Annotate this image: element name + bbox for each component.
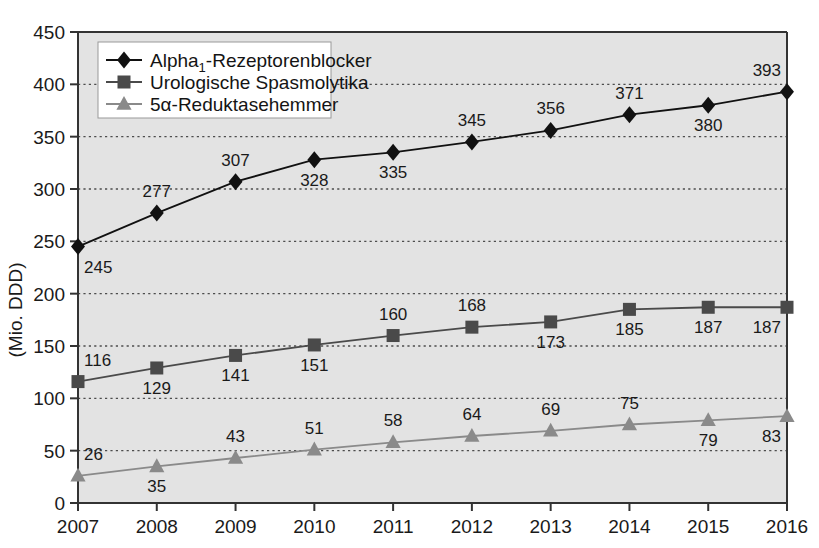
value-label: 160 — [379, 305, 407, 324]
y-tick-label: 100 — [33, 388, 65, 409]
x-tick-label: 2016 — [766, 516, 808, 537]
y-tick-label: 350 — [33, 127, 65, 148]
legend-label: Urologische Spasmolytika — [150, 72, 369, 93]
value-label: 187 — [694, 318, 722, 337]
value-label: 141 — [221, 366, 249, 385]
value-label: 58 — [384, 411, 403, 430]
legend-label: 5α-Reduktasehemmer — [150, 94, 339, 115]
marker-square — [702, 301, 715, 314]
y-tick-label: 0 — [54, 493, 65, 514]
y-tick-label: 200 — [33, 284, 65, 305]
value-label: 43 — [226, 427, 245, 446]
y-axis-ticks: 050100150200250300350400450 — [33, 22, 78, 514]
value-label: 64 — [462, 405, 481, 424]
x-axis-ticks: 2007200820092010201120122013201420152016 — [57, 503, 808, 537]
x-tick-label: 2007 — [57, 516, 99, 537]
x-tick-label: 2009 — [214, 516, 256, 537]
value-label: 51 — [305, 419, 324, 438]
value-label: 371 — [615, 84, 643, 103]
marker-square — [387, 329, 400, 342]
value-label: 26 — [84, 445, 103, 464]
value-label: 151 — [300, 356, 328, 375]
value-label: 335 — [379, 163, 407, 182]
x-tick-label: 2008 — [136, 516, 178, 537]
value-label: 35 — [147, 477, 166, 496]
y-axis-title: (Mio. DDD) — [5, 263, 26, 358]
marker-square — [544, 315, 557, 328]
value-label: 168 — [458, 296, 486, 315]
marker-square — [72, 375, 85, 388]
value-label: 345 — [458, 111, 486, 130]
y-tick-label: 300 — [33, 179, 65, 200]
y-tick-label: 150 — [33, 336, 65, 357]
value-label: 173 — [536, 333, 564, 352]
value-label: 245 — [84, 258, 112, 277]
marker-square — [118, 76, 131, 89]
marker-square — [781, 301, 794, 314]
value-label: 185 — [615, 320, 643, 339]
value-label: 75 — [620, 394, 639, 413]
value-label: 129 — [143, 379, 171, 398]
value-label: 83 — [762, 427, 781, 446]
x-tick-label: 2010 — [293, 516, 335, 537]
x-tick-label: 2015 — [687, 516, 729, 537]
value-label: 277 — [143, 182, 171, 201]
y-axis-title-label: (Mio. DDD) — [5, 263, 26, 358]
value-label: 69 — [541, 400, 560, 419]
x-tick-label: 2012 — [451, 516, 493, 537]
y-tick-label: 450 — [33, 22, 65, 43]
marker-square — [465, 321, 478, 334]
y-tick-label: 50 — [44, 441, 65, 462]
x-tick-label: 2014 — [608, 516, 651, 537]
line-chart: 050100150200250300350400450 200720082009… — [0, 0, 819, 548]
value-label: 328 — [300, 171, 328, 190]
value-label: 307 — [221, 151, 249, 170]
y-tick-label: 400 — [33, 74, 65, 95]
y-tick-label: 250 — [33, 231, 65, 252]
x-tick-label: 2011 — [373, 516, 414, 537]
marker-square — [623, 303, 636, 316]
value-label: 187 — [753, 318, 781, 337]
value-label: 79 — [699, 431, 718, 450]
marker-square — [150, 361, 163, 374]
x-tick-label: 2013 — [530, 516, 572, 537]
marker-square — [308, 338, 321, 351]
marker-square — [229, 349, 242, 362]
value-label: 116 — [84, 351, 111, 370]
value-label: 356 — [536, 99, 564, 118]
value-label: 393 — [753, 61, 781, 80]
chart-container: 050100150200250300350400450 200720082009… — [0, 0, 819, 548]
value-label: 380 — [694, 116, 722, 135]
legend: Alpha1-RezeptorenblockerUrologische Spas… — [98, 42, 372, 118]
